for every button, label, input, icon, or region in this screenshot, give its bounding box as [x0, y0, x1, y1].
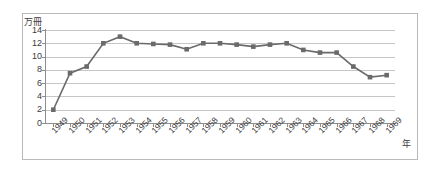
y-tick-mark: [42, 70, 45, 71]
y-tick-mark: [42, 30, 45, 31]
gridline: [45, 110, 395, 111]
y-tick-mark: [42, 123, 45, 124]
gridline: [45, 70, 395, 71]
y-tick-label: 14: [32, 26, 42, 35]
plot-area: [45, 30, 395, 123]
y-tick-label: 10: [32, 52, 42, 61]
y-tick-mark: [42, 110, 45, 111]
y-tick-mark: [42, 96, 45, 97]
y-tick-label: 12: [32, 39, 42, 48]
chart-screenshot: 万冊 14121086420 1949195019511952195319541…: [0, 0, 424, 173]
gridline: [45, 83, 395, 84]
y-tick-mark: [42, 57, 45, 58]
gridline: [45, 30, 395, 31]
y-axis-line: [45, 29, 46, 124]
y-axis-tick-labels: 14121086420: [22, 0, 42, 173]
y-tick-mark: [42, 83, 45, 84]
gridline: [45, 96, 395, 97]
gridline: [45, 43, 395, 44]
gridline: [45, 57, 395, 58]
x-axis-title: 年: [402, 139, 411, 149]
y-tick-mark: [42, 43, 45, 44]
